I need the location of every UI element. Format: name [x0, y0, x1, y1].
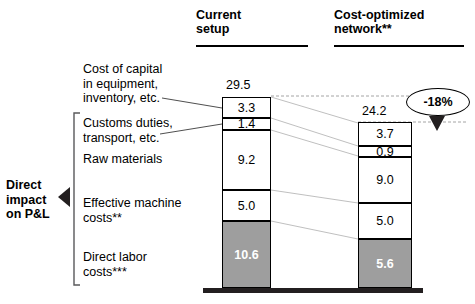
bar-segment-optimized-cost-of-capital: 3.7 — [358, 122, 412, 146]
bar-segment-current-customs-duties: 1.4 — [222, 118, 271, 130]
segment-value: 5.0 — [376, 214, 393, 228]
grouping-bracket — [74, 113, 80, 285]
status-badge-delta: -18% — [406, 88, 470, 116]
segment-value: 10.6 — [234, 248, 258, 262]
bracket-pointer-icon — [58, 187, 70, 207]
segment-value: 1.4 — [238, 117, 255, 131]
bar-total-cost-optimized-network: 24.2 — [362, 104, 386, 118]
chart-baseline — [203, 288, 423, 293]
leader-lines — [160, 98, 222, 134]
segment-value: 5.6 — [376, 257, 393, 271]
bar-segment-optimized-machine-costs: 5.0 — [358, 203, 412, 239]
segment-value: 9.2 — [238, 153, 255, 167]
stacked-bar-chart-figure: Current setup Cost-optimized network** C… — [0, 0, 475, 304]
segment-value: 3.3 — [238, 101, 255, 115]
segment-value: 9.0 — [376, 173, 393, 187]
bar-segment-optimized-customs-duties: 0.9 — [358, 146, 412, 157]
bar-segment-optimized-raw-materials: 9.0 — [358, 157, 412, 203]
bar-segment-current-cost-of-capital: 3.3 — [222, 97, 271, 118]
bar-segment-current-machine-costs: 5.0 — [222, 190, 271, 221]
segment-connectors — [271, 97, 358, 239]
bar-segment-current-direct-labor: 10.6 — [222, 221, 271, 288]
bar-total-current-setup: 29.5 — [226, 78, 250, 92]
segment-value: 5.0 — [238, 199, 255, 213]
segment-value: 3.7 — [376, 127, 393, 141]
bar-segment-current-raw-materials: 9.2 — [222, 130, 271, 190]
bar-segment-optimized-direct-labor: 5.6 — [358, 239, 412, 288]
